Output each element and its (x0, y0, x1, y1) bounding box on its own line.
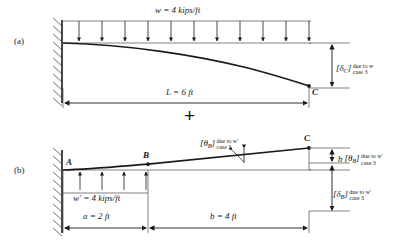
point-label-c-a: C (312, 88, 318, 97)
point-label-c-b: C (304, 134, 310, 143)
defl-bracket-close-b: ] (344, 189, 347, 199)
slope-times-b-sup-text: due to w' (361, 153, 383, 160)
wall-support-a (53, 18, 62, 106)
defl-sup-text-a: due to w (353, 63, 374, 70)
defl-sub-text-b: case 3 (349, 195, 371, 202)
slope-times-b-sub-text: case 3 (361, 160, 383, 167)
plus-operator: + (184, 106, 195, 126)
slope-bracket-close-b: ] (212, 138, 215, 148)
panel-a-graphics (53, 18, 350, 108)
deflection-note-a: [δC] due to w case 3 (336, 58, 373, 76)
slope-times-b-bracket-close: ] (356, 153, 359, 163)
elastic-curve-b (63, 148, 309, 170)
distributed-load-arrows-a (79, 21, 309, 41)
slope-callout-b: [θB] due to w' case 3 (200, 133, 238, 151)
elastic-curve-a (63, 43, 309, 86)
deflection-note-b: [δB] due to w' case 3 (333, 184, 371, 202)
dim-a-label-b: a = 2 ft (83, 212, 110, 221)
point-label-b-b: B (143, 151, 149, 160)
panel-tag-a: (a) (14, 37, 24, 46)
span-label-a: L = 6 ft (166, 88, 193, 97)
slope-sub-text-b: case 3 (217, 144, 239, 151)
slope-times-b-lead: b (338, 155, 343, 164)
point-b-marker-b (146, 162, 150, 166)
slope-sup-text-b: due to w' (217, 138, 239, 145)
panel-tag-b: (b) (14, 166, 25, 175)
point-c-marker-a (307, 84, 311, 88)
slope-times-b-note: b [θB] due to w' case 3 (338, 149, 383, 166)
defl-sup-text-b: due to w' (349, 189, 371, 196)
point-label-a-b: A (66, 158, 72, 167)
wall-support-b (53, 148, 62, 236)
dim-b-label-b: b = 4 ft (210, 212, 237, 221)
beam-superposition-figure: (a) w = 4 kips/ft C L = 6 ft [δC] due to… (0, 0, 414, 244)
defl-sub-text-a: case 3 (353, 69, 374, 76)
load-label-b: w' = 4 kips/ft (73, 194, 120, 203)
distributed-load-arrows-b (80, 172, 146, 190)
defl-bracket-close-a: ] (348, 63, 351, 73)
panel-b-graphics (53, 146, 350, 236)
figure-canvas (0, 0, 414, 244)
load-label-a: w = 4 kips/ft (155, 6, 200, 15)
